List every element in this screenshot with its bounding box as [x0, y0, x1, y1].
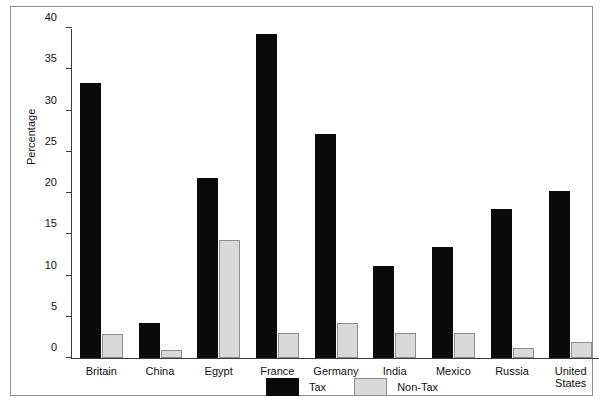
y-axis-tick: 35: [66, 68, 72, 69]
bar-tax: [139, 323, 160, 358]
bar-group: [373, 28, 416, 358]
bar-non-tax: [102, 334, 123, 358]
gray-square-swatch: [354, 378, 387, 396]
bar-group: [197, 28, 240, 358]
bar-non-tax: [571, 342, 592, 358]
legend-item-label: Non-Tax: [397, 381, 438, 393]
bar-group: [549, 28, 592, 358]
black-square-swatch: [266, 378, 299, 396]
bar-group: [80, 28, 123, 358]
y-axis-tick-label: 10: [45, 259, 57, 270]
bar-group: [432, 28, 475, 358]
y-axis-title: Percentage: [25, 109, 37, 165]
y-axis-tick-label: 5: [51, 300, 57, 311]
bar-tax: [80, 83, 101, 358]
bar-non-tax: [219, 240, 240, 358]
x-axis-tick-label: Mexico: [424, 365, 483, 377]
bar-tax: [197, 178, 218, 358]
bar-tax: [549, 191, 570, 358]
x-axis-tick-label-line: Egypt: [189, 365, 248, 377]
bar-group: [315, 28, 358, 358]
y-axis-tick: 10: [66, 275, 72, 276]
y-axis-tick: 25: [66, 151, 72, 152]
bar-group: [491, 28, 534, 358]
y-axis-tick: 20: [66, 192, 72, 193]
x-axis-tick-label-line: United: [541, 365, 600, 377]
y-axis-tick-label: 20: [45, 177, 57, 188]
legend-item: Non-Tax: [354, 378, 466, 396]
y-axis-tick-label: 30: [45, 94, 57, 105]
y-axis-tick: 15: [66, 233, 72, 234]
x-axis-tick-label: Russia: [483, 365, 542, 377]
y-axis-tick: 5: [66, 316, 72, 317]
y-axis-tick-label: 35: [45, 53, 57, 64]
bar-non-tax: [454, 333, 475, 358]
legend-item: Tax: [266, 378, 354, 396]
x-axis-tick-label-line: France: [248, 365, 307, 377]
x-axis-tick-label: France: [248, 365, 307, 377]
bar-group: [256, 28, 299, 358]
bar-tax: [491, 209, 512, 358]
bar-non-tax: [278, 333, 299, 358]
x-axis-tick-label: Egypt: [189, 365, 248, 377]
x-axis-tick-label-line: China: [131, 365, 190, 377]
x-axis-tick-label: Britain: [72, 365, 131, 377]
legend-item-label: Tax: [309, 381, 326, 393]
x-axis-tick-label-line: Russia: [483, 365, 542, 377]
x-axis-tick-label: Germany: [307, 365, 366, 377]
y-axis-tick: 40: [66, 27, 72, 28]
x-axis-tick-label-line: Mexico: [424, 365, 483, 377]
x-axis-tick-label: India: [365, 365, 424, 377]
bar-tax: [432, 247, 453, 358]
chart-figure: Percentage 0510152025303540 BritainChina…: [0, 0, 605, 418]
bar-non-tax: [513, 348, 534, 358]
y-axis-tick-label: 15: [45, 218, 57, 229]
x-axis-tick-label: China: [131, 365, 190, 377]
bar-tax: [315, 134, 336, 358]
bar-non-tax: [161, 350, 182, 358]
bar-tax: [256, 34, 277, 358]
bar-group: [139, 28, 182, 358]
chart-legend: TaxNon-Tax: [266, 378, 466, 396]
bar-tax: [373, 266, 394, 358]
y-axis-tick: 0: [66, 357, 72, 358]
x-axis-tick-label-line: Britain: [72, 365, 131, 377]
x-axis-tick-label-line: States: [541, 377, 600, 389]
bar-non-tax: [337, 323, 358, 358]
bar-non-tax: [395, 333, 416, 358]
y-axis-tick-label: 40: [45, 12, 57, 23]
y-axis-tick-label: 0: [51, 342, 57, 353]
x-axis-tick-label: UnitedStates: [541, 365, 600, 389]
plot-area: 0510152025303540 BritainChinaEgyptFrance…: [71, 29, 599, 359]
x-axis-tick-label-line: Germany: [307, 365, 366, 377]
chart-frame: Percentage 0510152025303540 BritainChina…: [10, 6, 593, 396]
y-axis-tick: 30: [66, 110, 72, 111]
y-axis-tick-label: 25: [45, 135, 57, 146]
x-axis-tick-label-line: India: [365, 365, 424, 377]
